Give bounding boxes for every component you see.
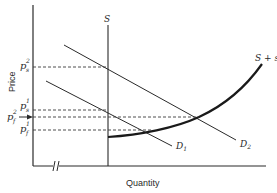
svg-text:2: 2 xyxy=(12,108,17,115)
label-pf2: p 2 f xyxy=(7,108,17,125)
label-d2: D2 xyxy=(239,139,251,150)
svg-text:2: 2 xyxy=(25,57,30,64)
svg-text:f: f xyxy=(25,129,30,137)
svg-text:1: 1 xyxy=(26,120,30,127)
label-ps1: p 1 s xyxy=(20,97,30,113)
label-s: S xyxy=(104,14,110,24)
x-axis-break-icon xyxy=(53,161,59,171)
svg-text:1: 1 xyxy=(26,97,30,104)
label-s-plus-s: S + s xyxy=(255,53,277,63)
supply-curve-s-plus-s xyxy=(108,64,262,137)
y-axis-label: Price xyxy=(7,71,17,92)
svg-text:s: s xyxy=(26,106,29,113)
demand-curve-d2 xyxy=(64,45,236,140)
pf2-arrow-icon xyxy=(19,115,33,120)
svg-text:s: s xyxy=(26,66,29,73)
label-d1: D1 xyxy=(175,141,187,152)
svg-text:f: f xyxy=(12,117,17,125)
x-axis-label: Quantity xyxy=(126,178,160,188)
supply-demand-diagram: S S + s D1 D2 p 2 s p 1 s p 2 f p 1 f Pr… xyxy=(0,0,277,193)
label-ps2: p 2 s xyxy=(20,57,30,73)
label-pf1: p 1 f xyxy=(20,120,30,137)
